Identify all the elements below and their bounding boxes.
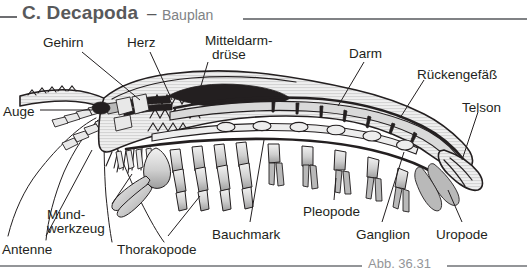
thoracopod xyxy=(192,146,209,211)
label-uropode: Uropode xyxy=(436,228,488,242)
label-mitteldarmdruse-line2: drüse xyxy=(212,48,246,62)
label-mitteldarmdruse-line1: Mitteldarm- xyxy=(205,34,273,48)
pleopod xyxy=(302,146,318,189)
leader-bauchmark xyxy=(250,140,264,222)
label-darm: Darm xyxy=(349,47,382,61)
ganglion xyxy=(217,122,235,131)
thoracopod xyxy=(170,149,187,211)
ganglion xyxy=(397,140,414,150)
pleopod xyxy=(334,150,351,194)
ganglion xyxy=(327,125,345,135)
ganglion xyxy=(290,122,308,131)
label-telson: Telson xyxy=(462,101,501,115)
figure-caption: Abb. 36.31 xyxy=(368,256,431,271)
label-mundwerkzeug-line1: Mund- xyxy=(47,208,85,222)
label-herz: Herz xyxy=(127,36,156,50)
label-ruckengefass: Rückengefäß xyxy=(417,68,497,82)
eye xyxy=(92,102,110,114)
thoracopods-group xyxy=(170,142,253,211)
label-gehirn: Gehirn xyxy=(43,36,84,50)
figure-page: C. Decapoda – Bauplan xyxy=(0,0,527,277)
pleopod xyxy=(366,157,382,201)
label-auge: Auge xyxy=(3,105,35,119)
thoracopod xyxy=(214,144,231,211)
pleopod xyxy=(393,168,409,212)
figure-footer: Abb. 36.31 xyxy=(0,253,527,275)
ganglion xyxy=(363,131,381,141)
label-ganglion: Ganglion xyxy=(356,228,410,242)
label-bauchmark: Bauchmark xyxy=(212,228,280,242)
footer-rule-right xyxy=(447,265,527,267)
label-mundwerkzeug-line2: werkzeug xyxy=(47,222,105,236)
pleopod xyxy=(268,144,284,186)
thoracopod xyxy=(236,142,253,209)
label-pleopode: Pleopode xyxy=(303,205,360,219)
ganglion xyxy=(253,121,271,130)
footer-rule-left xyxy=(0,265,362,267)
